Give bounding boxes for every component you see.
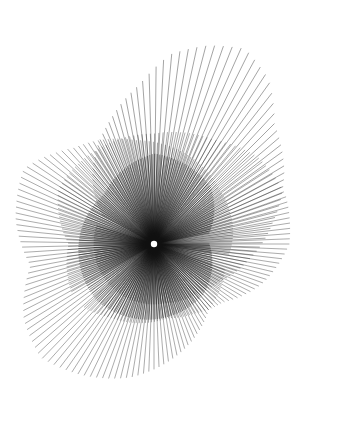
radial-line-artwork xyxy=(0,0,353,435)
center-dot xyxy=(151,241,157,247)
